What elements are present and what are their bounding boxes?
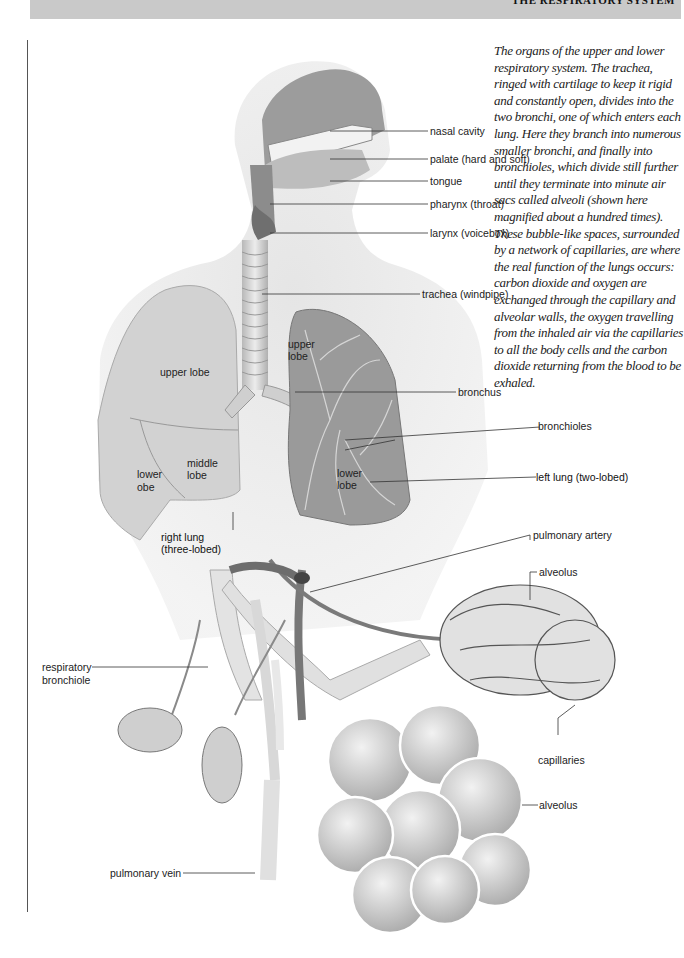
label-capillaries: capillaries bbox=[538, 754, 585, 766]
label-respiratory-bronchiole-2: bronchiole bbox=[42, 674, 90, 686]
label-trachea: trachea (windpipe) bbox=[422, 288, 508, 300]
label-tongue: tongue bbox=[430, 175, 462, 187]
large-alveolar-cluster bbox=[317, 705, 531, 933]
label-pharynx: pharynx (throat) bbox=[430, 198, 504, 210]
label-left-upper-lobe-2: lobe bbox=[288, 350, 308, 362]
label-nasal-cavity: nasal cavity bbox=[430, 125, 485, 137]
label-right-lower-lobe-1: lower bbox=[137, 468, 162, 480]
capillary-alveolar-sac bbox=[440, 585, 615, 700]
label-bronchus: bronchus bbox=[458, 386, 501, 398]
label-respiratory-bronchiole-1: respiratory bbox=[42, 661, 92, 673]
label-right-upper-lobe: upper lobe bbox=[160, 366, 210, 378]
label-right-lung-1: right lung bbox=[161, 531, 204, 543]
label-pulmonary-artery: pulmonary artery bbox=[533, 529, 612, 541]
label-alveolus-top: alveolus bbox=[539, 566, 578, 578]
label-middle-lobe-1: middle bbox=[187, 457, 218, 469]
label-left-lung: left lung (two-lobed) bbox=[536, 471, 628, 483]
label-bronchioles: bronchioles bbox=[538, 420, 592, 432]
label-left-lower-lobe-1: lower bbox=[337, 467, 362, 479]
label-middle-lobe-2: lobe bbox=[187, 469, 207, 481]
label-left-lower-lobe-2: lobe bbox=[337, 479, 357, 491]
label-pulmonary-vein: pulmonary vein bbox=[110, 867, 181, 879]
figure-caption: The organs of the upper and lower respir… bbox=[494, 43, 684, 391]
label-right-lower-lobe-2: obe bbox=[137, 481, 155, 493]
label-palate: palate (hard and soft) bbox=[430, 153, 530, 165]
label-alveolus-bottom: alveolus bbox=[539, 799, 578, 811]
small-alveolar-clusters bbox=[118, 708, 242, 803]
label-larynx: larynx (voicebox) bbox=[430, 227, 509, 239]
label-right-lung-2: (three-lobed) bbox=[161, 543, 221, 555]
label-left-upper-lobe-1: upper bbox=[288, 338, 315, 350]
